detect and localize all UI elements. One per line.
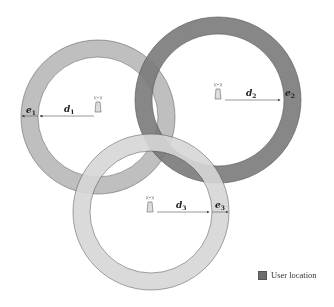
antenna-tower-icon: ((•)) [146,195,155,212]
trilateration-diagram: ((•)) d1 e1 ((•)) d2 e2 ((•)) d3 [0,0,334,307]
legend-label: User location [271,270,317,280]
svg-text:d1: d1 [64,104,74,115]
diagram-canvas: ((•)) d1 e1 ((•)) d2 e2 ((•)) d3 [0,0,334,307]
user-location-swatch [258,271,267,280]
legend: User location [258,270,317,280]
svg-text:d2: d2 [246,88,256,99]
svg-text:((•)): ((•)) [214,82,223,87]
antenna-tower-icon: ((•)) [214,82,223,99]
svg-text:((•)): ((•)) [146,195,155,200]
svg-text:((•)): ((•)) [94,95,103,100]
antenna-tower-icon: ((•)) [94,95,103,112]
svg-text:d3: d3 [176,200,186,211]
